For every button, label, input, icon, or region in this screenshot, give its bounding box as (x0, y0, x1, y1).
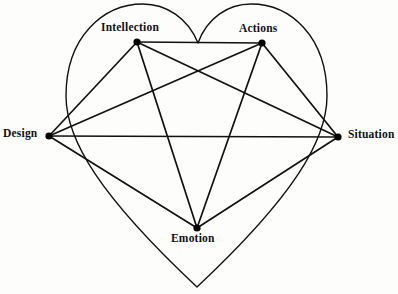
node-design[interactable] (45, 132, 52, 139)
edge-intellection-situation (137, 42, 338, 137)
node-label-intellection: Intellection (101, 22, 159, 34)
heart-network-diagram: Intellection Actions Design Situation Em… (0, 0, 398, 294)
edge-design-emotion (49, 136, 197, 228)
node-emotion[interactable] (193, 224, 200, 231)
node-actions[interactable] (258, 39, 265, 46)
edge-layer (49, 42, 338, 228)
node-label-design: Design (3, 128, 37, 140)
node-label-emotion: Emotion (171, 233, 215, 245)
edge-design-situation (49, 136, 338, 137)
edge-intellection-design (49, 42, 137, 136)
node-label-situation: Situation (348, 129, 395, 141)
heart-outline-shape (66, 4, 327, 287)
node-situation[interactable] (334, 133, 341, 140)
node-layer (45, 38, 341, 231)
node-label-actions: Actions (239, 23, 277, 35)
edge-intellection-emotion (137, 42, 197, 228)
edge-intellection-actions (137, 42, 262, 43)
diagram-canvas (0, 0, 398, 294)
node-intellection[interactable] (133, 38, 140, 45)
edge-actions-emotion (197, 43, 262, 228)
edge-actions-design (49, 43, 262, 136)
